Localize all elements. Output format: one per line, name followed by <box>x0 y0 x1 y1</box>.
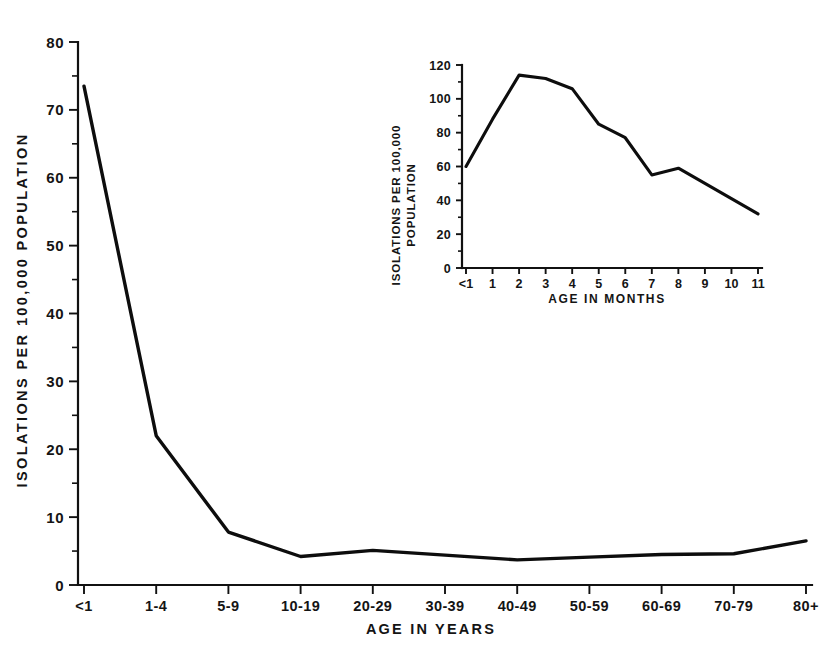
x-tick-label: 1-4 <box>145 598 167 614</box>
main-data-series-line <box>84 86 806 560</box>
y-tick-label: 10 <box>46 509 64 526</box>
y-tick-label: 0 <box>444 262 451 276</box>
main-y-axis-title: ISOLATIONS PER 100,000 POPULATION <box>14 132 30 487</box>
y-tick-label: 80 <box>436 126 451 140</box>
inset-x-tick-labels: <11234567891011 <box>459 277 765 291</box>
y-tick-label: 60 <box>46 169 64 186</box>
x-tick-label: 1 <box>489 277 496 291</box>
x-tick-label: 30-39 <box>425 598 464 614</box>
epidemiology-line-chart-figure: 01020304050607080 <11-45-910-1920-2930-3… <box>0 0 837 653</box>
main-x-axis-title: AGE IN YEARS <box>366 621 496 637</box>
x-tick-label: 60-69 <box>642 598 681 614</box>
x-tick-label: 7 <box>648 277 655 291</box>
main-x-tick-marks <box>84 585 806 594</box>
y-tick-label: 70 <box>46 101 64 118</box>
x-tick-label: 3 <box>542 277 549 291</box>
inset-data-series-line <box>466 75 758 214</box>
y-tick-label: 40 <box>436 194 451 208</box>
x-tick-label: <1 <box>75 598 92 614</box>
x-tick-label: <1 <box>459 277 473 291</box>
x-tick-label: 5 <box>595 277 602 291</box>
x-tick-label: 50-59 <box>570 598 609 614</box>
x-tick-label: 6 <box>622 277 629 291</box>
x-tick-label: 9 <box>701 277 708 291</box>
y-tick-label: 0 <box>55 577 64 594</box>
x-tick-label: 11 <box>751 277 764 291</box>
inset-y-axis-title-line1: ISOLATIONS PER 100,000 <box>390 125 402 286</box>
main-x-tick-labels: <11-45-910-1920-2930-3940-4950-5960-6970… <box>75 598 819 614</box>
inset-chart: 020406080100120 <11234567891011 AGE IN M… <box>390 59 765 307</box>
x-tick-label: 40-49 <box>498 598 537 614</box>
inset-y-tick-labels: 020406080100120 <box>429 59 451 276</box>
y-tick-label: 60 <box>436 160 451 174</box>
y-tick-label: 20 <box>46 441 64 458</box>
y-tick-label: 50 <box>46 237 64 254</box>
x-tick-label: 8 <box>675 277 682 291</box>
main-y-tick-marks <box>69 42 78 585</box>
inset-y-axis-title-line2: POPULATION <box>405 163 417 247</box>
x-tick-label: 20-29 <box>353 598 392 614</box>
x-tick-label: 4 <box>569 277 576 291</box>
y-tick-label: 120 <box>429 59 451 73</box>
y-tick-label: 40 <box>46 305 64 322</box>
inset-x-axis-title: AGE IN MONTHS <box>548 292 665 306</box>
x-tick-label: 70-79 <box>714 598 753 614</box>
y-tick-label: 100 <box>429 92 451 106</box>
main-chart: 01020304050607080 <11-45-910-1920-2930-3… <box>14 34 819 638</box>
y-tick-label: 20 <box>436 228 451 242</box>
x-tick-label: 2 <box>516 277 523 291</box>
x-tick-label: 80+ <box>793 598 819 614</box>
x-tick-label: 10-19 <box>281 598 320 614</box>
figure-root: 01020304050607080 <11-45-910-1920-2930-3… <box>0 0 837 653</box>
y-tick-label: 30 <box>46 373 64 390</box>
main-y-tick-labels: 01020304050607080 <box>46 34 64 594</box>
y-tick-label: 80 <box>46 34 64 51</box>
x-tick-label: 5-9 <box>217 598 239 614</box>
figure-caption-fragment <box>0 643 837 653</box>
x-tick-label: 10 <box>725 277 739 291</box>
